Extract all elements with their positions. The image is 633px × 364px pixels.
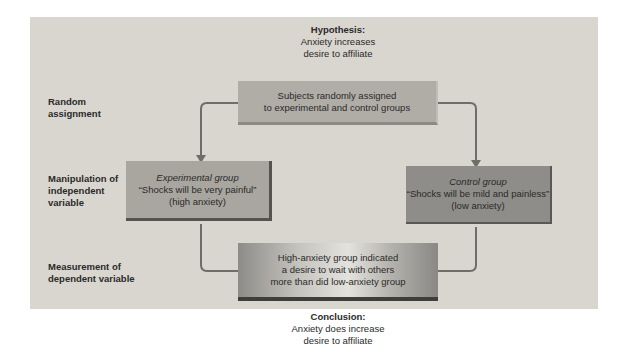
box-title: Experimental group: [126, 172, 269, 184]
conclusion: Conclusion: Anxiety does increase desire…: [268, 311, 408, 347]
hypothesis-line: desire to affiliate: [268, 48, 408, 60]
experimental-group-box: Experimental group “Shocks will be very …: [126, 161, 272, 221]
label-line: Manipulation of: [48, 173, 118, 185]
box-line: High-anxiety group indicated: [238, 252, 438, 264]
box-line: Subjects randomly assigned: [238, 90, 436, 102]
box-line: a desire to wait with others: [238, 264, 438, 276]
box-line: (low anxiety): [406, 200, 550, 212]
result-box: High-anxiety group indicated a desire to…: [238, 243, 438, 301]
control-group-box: Control group “Shocks will be mild and p…: [406, 166, 552, 224]
box-line: to experimental and control groups: [238, 102, 436, 114]
label-line: Measurement of: [48, 261, 135, 273]
label-random-assignment: Random assignment: [48, 96, 101, 120]
hypothesis-heading: Hypothesis:: [268, 24, 408, 36]
label-line: variable: [48, 197, 118, 209]
label-measurement: Measurement of dependent variable: [48, 261, 135, 285]
box-title: Control group: [406, 176, 550, 188]
box-line: more than did low-anxiety group: [238, 276, 438, 288]
hypothesis-line: Anxiety increases: [268, 36, 408, 48]
assignment-box: Subjects randomly assigned to experiment…: [238, 81, 438, 125]
box-line: “Shocks will be very painful”: [126, 184, 269, 196]
label-line: dependent variable: [48, 273, 135, 285]
label-line: independent: [48, 185, 118, 197]
hypothesis: Hypothesis: Anxiety increases desire to …: [268, 24, 408, 60]
box-line: “Shocks will be mild and painless”: [406, 188, 550, 200]
conclusion-line: desire to affiliate: [268, 335, 408, 347]
label-line: Random: [48, 96, 101, 108]
label-line: assignment: [48, 108, 101, 120]
box-line: (high anxiety): [126, 196, 269, 208]
label-manipulation: Manipulation of independent variable: [48, 173, 118, 209]
conclusion-heading: Conclusion:: [268, 311, 408, 323]
conclusion-line: Anxiety does increase: [268, 323, 408, 335]
